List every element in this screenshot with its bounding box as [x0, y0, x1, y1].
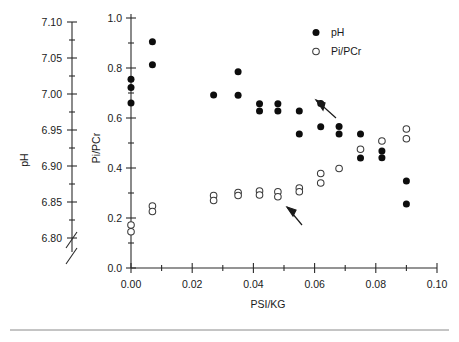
data-point-pi-pcr — [128, 222, 135, 229]
data-point-ph — [296, 131, 303, 138]
data-point-pi-pcr — [317, 180, 324, 187]
data-point-pi-pcr — [379, 138, 386, 145]
data-point-ph — [336, 123, 343, 130]
data-point-ph — [128, 100, 135, 107]
left-axis-title: pH — [18, 153, 30, 166]
legend-label: pH — [331, 26, 344, 38]
legend-marker-open-circle-icon — [313, 48, 320, 55]
left-axis-tick-label: 7.10 — [42, 16, 63, 28]
y-axis-tick-label: 0.4 — [107, 162, 122, 174]
data-point-ph — [357, 155, 364, 162]
data-point-ph — [378, 154, 385, 161]
left-axis-tick-label: 6.80 — [42, 232, 63, 244]
x-axis-tick-label: 0.10 — [427, 278, 448, 290]
legend-marker-filled-circle-icon — [313, 29, 320, 36]
x-axis-title: PSI/KG — [250, 298, 285, 310]
x-axis-tick-label: 0.00 — [121, 278, 142, 290]
data-point-pi-pcr — [128, 228, 135, 235]
data-point-pi-pcr — [403, 135, 410, 142]
left-ph-axis: 6.806.856.906.957.007.057.10 — [42, 16, 77, 264]
data-point-pi-pcr — [256, 192, 263, 199]
y-axis-tick-label: 0.6 — [107, 112, 122, 124]
data-point-pi-pcr — [357, 146, 364, 153]
x-axis-psi-kg: 0.000.020.040.060.080.10 — [121, 263, 448, 290]
data-point-pi-pcr — [403, 126, 410, 133]
upper-arrow-icon — [316, 100, 336, 118]
x-axis-tick-label: 0.02 — [182, 278, 203, 290]
data-point-pi-pcr — [317, 170, 324, 177]
data-point-ph — [357, 131, 364, 138]
data-point-ph — [235, 68, 242, 75]
data-point-ph — [256, 108, 263, 115]
data-point-ph — [403, 178, 410, 185]
y-axis-tick-label: 1.0 — [107, 12, 122, 24]
lower-arrow-icon — [287, 207, 302, 225]
y-axis-tick-label: 0.0 — [107, 262, 122, 274]
data-point-ph — [336, 131, 343, 138]
left-axis-tick-label: 6.95 — [42, 124, 63, 136]
legend-label: Pi/PCr — [331, 45, 362, 57]
left-axis-tick-label: 7.05 — [42, 52, 63, 64]
data-point-pi-pcr — [235, 192, 242, 199]
data-point-ph — [378, 148, 385, 155]
data-point-ph — [274, 100, 281, 107]
x-axis-tick-label: 0.06 — [304, 278, 325, 290]
annotation-arrows — [287, 100, 336, 225]
left-axis-tick-label: 6.90 — [42, 160, 63, 172]
y-axis-tick-label: 0.2 — [107, 212, 122, 224]
y-axis-title: Pi/PCr — [90, 132, 102, 163]
data-point-ph — [403, 201, 410, 208]
data-point-pi-pcr — [149, 208, 156, 215]
series-ph-points — [128, 38, 410, 207]
data-point-ph — [235, 92, 242, 99]
y-axis-tick-label: 0.8 — [107, 62, 122, 74]
data-point-ph — [256, 100, 263, 107]
legend: pHPi/PCr — [313, 26, 362, 57]
data-point-pi-pcr — [336, 165, 343, 172]
data-point-ph — [149, 38, 156, 45]
data-point-ph — [274, 108, 281, 115]
figure-container: 6.806.856.906.957.007.057.10 pH 0.00.20.… — [0, 0, 459, 342]
data-point-ph — [210, 92, 217, 99]
left-axis-tick-label: 6.85 — [42, 196, 63, 208]
x-axis-tick-label: 0.04 — [243, 278, 264, 290]
data-point-ph — [317, 123, 324, 130]
data-point-ph — [128, 76, 135, 83]
data-point-ph — [296, 108, 303, 115]
left-axis-tick-label: 7.00 — [42, 88, 63, 100]
data-point-ph — [128, 84, 135, 91]
x-axis-tick-label: 0.08 — [366, 278, 387, 290]
data-point-pi-pcr — [275, 193, 282, 200]
data-point-pi-pcr — [296, 188, 303, 195]
scatter-plot: 6.806.856.906.957.007.057.10 pH 0.00.20.… — [0, 0, 459, 342]
data-point-ph — [149, 61, 156, 68]
data-point-pi-pcr — [210, 197, 217, 204]
series-pi-pcr-points — [128, 126, 410, 235]
